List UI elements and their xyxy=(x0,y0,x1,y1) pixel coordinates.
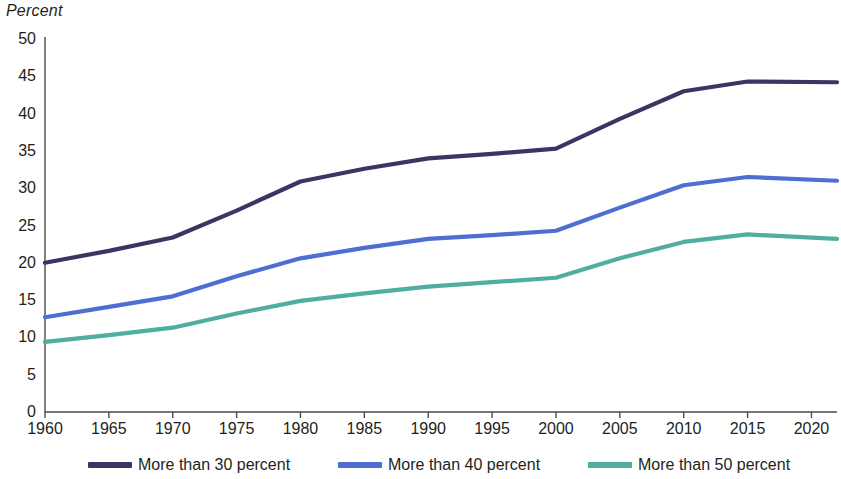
legend-item-2[interactable]: More than 50 percent xyxy=(588,454,790,476)
legend-label-0: More than 30 percent xyxy=(138,457,290,473)
x-tick-marks xyxy=(45,412,811,418)
series-line-0 xyxy=(45,82,837,263)
legend-item-1[interactable]: More than 40 percent xyxy=(338,454,540,476)
series-line-2 xyxy=(45,234,837,341)
legend-swatch-icon-1 xyxy=(338,462,382,468)
chart-legend: More than 30 percentMore than 40 percent… xyxy=(0,452,841,479)
plot-area xyxy=(0,0,841,479)
legend-swatch-icon-2 xyxy=(588,462,632,468)
series-lines xyxy=(45,82,837,342)
series-line-1 xyxy=(45,177,837,317)
legend-item-0[interactable]: More than 30 percent xyxy=(88,454,290,476)
legend-label-1: More than 40 percent xyxy=(388,457,540,473)
legend-swatch-icon-0 xyxy=(88,462,132,468)
legend-label-2: More than 50 percent xyxy=(638,457,790,473)
axis-lines xyxy=(45,37,837,412)
line-chart: Percent 05101520253035404550 19601965197… xyxy=(0,0,841,479)
